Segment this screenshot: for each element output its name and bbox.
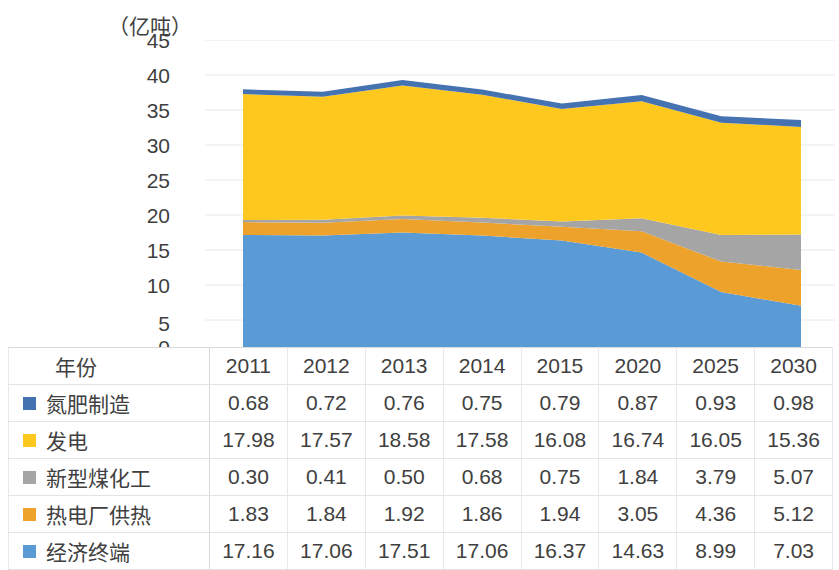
table-cell-氮肥制造-2015: 0.79 <box>521 385 599 422</box>
table-year-header: 年份 <box>9 348 210 385</box>
y-axis-tick-25: 25 <box>147 170 170 191</box>
legend-entry: 氮肥制造 <box>9 388 209 418</box>
y-axis-tick-40: 40 <box>147 65 170 86</box>
y-axis-tick-30: 30 <box>147 135 170 156</box>
table-cell-新型煤化工-2013: 0.50 <box>365 459 443 496</box>
table-cell-氮肥制造-2014: 0.75 <box>443 385 521 422</box>
table-row-header-氮肥制造: 氮肥制造 <box>9 385 210 422</box>
table-cell-氮肥制造-2020: 0.87 <box>599 385 677 422</box>
table-cell-发电-2013: 18.58 <box>365 422 443 459</box>
table-row-header-新型煤化工: 新型煤化工 <box>9 459 210 496</box>
table-cell-发电-2014: 17.58 <box>443 422 521 459</box>
table-cell-氮肥制造-2011: 0.68 <box>210 385 288 422</box>
legend-swatch-icon <box>23 397 36 410</box>
table-cell-经济终端-2014: 17.06 <box>443 533 521 570</box>
table-cell-热电厂供热-2012: 1.84 <box>287 496 365 533</box>
y-axis-tick-35: 35 <box>147 100 170 121</box>
table-cell-新型煤化工-2012: 0.41 <box>287 459 365 496</box>
table-cell-热电厂供热-2015: 1.94 <box>521 496 599 533</box>
y-axis-tick-10: 10 <box>147 275 170 296</box>
table-row-header-经济终端: 经济终端 <box>9 533 210 570</box>
legend-swatch-icon <box>23 471 36 484</box>
table-column-header-2030: 2030 <box>755 348 833 385</box>
legend-entry: 热电厂供热 <box>9 499 209 529</box>
table-row: 经济终端17.1617.0617.5117.0616.3714.638.997.… <box>9 533 833 570</box>
table-cell-经济终端-2013: 17.51 <box>365 533 443 570</box>
legend-label: 热电厂供热 <box>46 499 151 529</box>
y-axis-tick-45: 45 <box>147 30 170 51</box>
area-series-发电 <box>243 85 801 235</box>
table-cell-发电-2025: 16.05 <box>677 422 755 459</box>
table-cell-新型煤化工-2020: 1.84 <box>599 459 677 496</box>
table-cell-热电厂供热-2011: 1.83 <box>210 496 288 533</box>
legend-swatch-icon <box>23 508 36 521</box>
legend-label: 新型煤化工 <box>46 462 151 492</box>
y-axis-tick-15: 15 <box>147 240 170 261</box>
table-cell-热电厂供热-2013: 1.92 <box>365 496 443 533</box>
table-cell-经济终端-2015: 16.37 <box>521 533 599 570</box>
table-cell-热电厂供热-2030: 5.12 <box>755 496 833 533</box>
table-cell-氮肥制造-2025: 0.93 <box>677 385 755 422</box>
table-row-header-发电: 发电 <box>9 422 210 459</box>
table-cell-经济终端-2025: 8.99 <box>677 533 755 570</box>
table-cell-新型煤化工-2011: 0.30 <box>210 459 288 496</box>
table-cell-新型煤化工-2030: 5.07 <box>755 459 833 496</box>
table-cell-发电-2030: 15.36 <box>755 422 833 459</box>
data-table: 年份20112012201320142015202020252030氮肥制造0.… <box>8 347 833 570</box>
table-column-header-2014: 2014 <box>443 348 521 385</box>
area-chart-svg <box>205 40 835 355</box>
table-cell-新型煤化工-2015: 0.75 <box>521 459 599 496</box>
table-cell-经济终端-2020: 14.63 <box>599 533 677 570</box>
table-column-header-2025: 2025 <box>677 348 755 385</box>
table-row: 热电厂供热1.831.841.921.861.943.054.365.12 <box>9 496 833 533</box>
legend-label: 经济终端 <box>46 536 130 566</box>
plot-area <box>205 40 835 355</box>
year-label: 年份 <box>9 356 97 379</box>
table-row: 氮肥制造0.680.720.760.750.790.870.930.98 <box>9 385 833 422</box>
legend-label: 氮肥制造 <box>46 388 130 418</box>
table-column-header-2020: 2020 <box>599 348 677 385</box>
table-cell-氮肥制造-2030: 0.98 <box>755 385 833 422</box>
table-cell-经济终端-2011: 17.16 <box>210 533 288 570</box>
y-axis-tick-5: 5 <box>158 313 170 334</box>
table-cell-热电厂供热-2020: 3.05 <box>599 496 677 533</box>
legend-entry: 经济终端 <box>9 536 209 566</box>
table-cell-氮肥制造-2013: 0.76 <box>365 385 443 422</box>
legend-label: 发电 <box>46 425 88 455</box>
legend-entry: 发电 <box>9 425 209 455</box>
table-cell-发电-2011: 17.98 <box>210 422 288 459</box>
legend-entry: 新型煤化工 <box>9 462 209 492</box>
table-cell-发电-2020: 16.74 <box>599 422 677 459</box>
y-axis-tick-20: 20 <box>147 205 170 226</box>
table-column-header-2011: 2011 <box>210 348 288 385</box>
table-cell-发电-2012: 17.57 <box>287 422 365 459</box>
table-cell-氮肥制造-2012: 0.72 <box>287 385 365 422</box>
legend-swatch-icon <box>23 545 36 558</box>
table-cell-经济终端-2030: 7.03 <box>755 533 833 570</box>
legend-swatch-icon <box>23 434 36 447</box>
table-cell-新型煤化工-2025: 3.79 <box>677 459 755 496</box>
table-cell-热电厂供热-2025: 4.36 <box>677 496 755 533</box>
table-cell-热电厂供热-2014: 1.86 <box>443 496 521 533</box>
table-header-row: 年份20112012201320142015202020252030 <box>9 348 833 385</box>
table-column-header-2013: 2013 <box>365 348 443 385</box>
table-row-header-热电厂供热: 热电厂供热 <box>9 496 210 533</box>
table-row: 新型煤化工0.300.410.500.680.751.843.795.07 <box>9 459 833 496</box>
table-column-header-2012: 2012 <box>287 348 365 385</box>
table-row: 发电17.9817.5718.5817.5816.0816.7416.0515.… <box>9 422 833 459</box>
table-cell-新型煤化工-2014: 0.68 <box>443 459 521 496</box>
stacked-area-chart: （亿吨） 454035302520151050 <box>0 0 839 349</box>
table-cell-发电-2015: 16.08 <box>521 422 599 459</box>
table-cell-经济终端-2012: 17.06 <box>287 533 365 570</box>
y-axis-tick-labels: 454035302520151050 <box>0 0 205 349</box>
table-column-header-2015: 2015 <box>521 348 599 385</box>
data-table-region: 年份20112012201320142015202020252030氮肥制造0.… <box>0 347 839 569</box>
